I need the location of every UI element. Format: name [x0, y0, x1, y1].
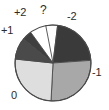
pie-slice-0: [15, 59, 53, 101]
pie-label-minus-1: -1: [92, 67, 101, 78]
pie-label-plus-2: +2: [14, 7, 26, 18]
pie-label-plus-1: +1: [1, 25, 13, 36]
pie-chart-figure: +2 ? -2 +1 -1 0: [0, 0, 109, 110]
pie-label-zero: 0: [11, 90, 17, 101]
pie-label-minus-2: -2: [67, 11, 76, 22]
pie-label-unknown: ?: [40, 4, 46, 16]
pie-slice-minus-1: [51, 60, 91, 101]
pie-slice-minus-2: [53, 25, 91, 63]
